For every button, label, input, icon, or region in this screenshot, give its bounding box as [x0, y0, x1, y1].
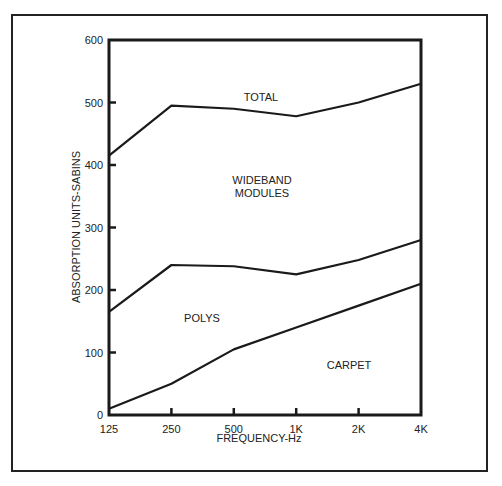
y-axis-title: ABSORPTION UNITS-SABINS: [70, 151, 82, 303]
x-axis-title: FREQUENCY-Hz: [216, 432, 301, 444]
label-modules: MODULES: [235, 187, 289, 199]
label-carpet: CARPET: [327, 359, 372, 371]
label-wideband: WIDEBAND: [232, 174, 291, 186]
curves: [109, 84, 421, 409]
x-tick-label: 250: [162, 423, 180, 435]
y-tick-label: 100: [85, 347, 103, 359]
y-axis: 0100200300400500600: [85, 34, 116, 421]
x-axis: 1252505001K2K4K: [100, 408, 429, 435]
y-tick-label: 0: [97, 409, 103, 421]
series-line-carpet: [109, 284, 421, 409]
chart: 0100200300400500600 1252505001K2K4K FREQ…: [0, 0, 502, 486]
y-tick-label: 400: [85, 159, 103, 171]
x-tick-label: 125: [100, 423, 118, 435]
y-tick-label: 200: [85, 284, 103, 296]
x-tick-label: 2K: [352, 423, 366, 435]
label-polys: POLYS: [184, 312, 220, 324]
y-tick-label: 300: [85, 222, 103, 234]
x-tick-label: 4K: [414, 423, 428, 435]
y-tick-label: 500: [85, 97, 103, 109]
label-total: TOTAL: [244, 91, 278, 103]
y-tick-label: 600: [85, 34, 103, 46]
